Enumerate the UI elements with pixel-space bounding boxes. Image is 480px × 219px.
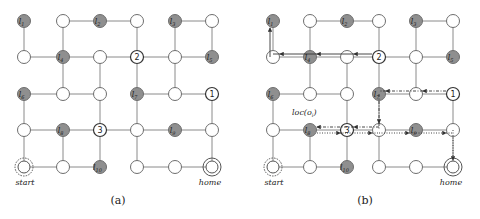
node-landmark-l1: l1 [18, 15, 31, 28]
svg-text:start: start [15, 178, 35, 187]
grid-map-figure: l1l2l3l42l5l6l71l83l9startl10home l1l2l3… [0, 0, 480, 219]
node-home-home: home [199, 158, 222, 187]
node-numbered-2: 2 [131, 51, 144, 64]
node-empty [169, 51, 182, 64]
node-empty [94, 51, 107, 64]
node-numbered-1: 1 [447, 88, 460, 101]
svg-text:3: 3 [97, 126, 102, 135]
loc-oi-annotation: loc(oi) [292, 108, 317, 118]
node-landmark-l5: l5 [206, 51, 219, 64]
node-empty [57, 88, 70, 101]
node-empty [304, 88, 317, 101]
node-empty [410, 161, 423, 174]
node-empty [169, 161, 182, 174]
node-empty [94, 88, 107, 101]
node-landmark-l8: l8 [57, 124, 70, 137]
node-landmark-l4: l4 [57, 51, 70, 64]
node-empty [57, 161, 70, 174]
svg-text:1: 1 [450, 90, 455, 99]
node-empty [18, 51, 31, 64]
node-empty [267, 124, 280, 137]
node-empty [131, 124, 144, 137]
node-empty [373, 161, 386, 174]
node-empty [18, 124, 31, 137]
node-landmark-l3: l3 [169, 15, 182, 28]
caption-b: (b) [357, 194, 373, 207]
node-landmark-l3: l3 [410, 15, 423, 28]
node-empty [169, 88, 182, 101]
node-landmark-l10: l10 [93, 161, 106, 174]
svg-text:2: 2 [376, 53, 381, 62]
node-landmark-l8: l8 [304, 124, 317, 137]
svg-text:start: start [264, 178, 284, 187]
node-empty [410, 51, 423, 64]
node-landmark-l9: l9 [410, 124, 423, 137]
svg-text:1: 1 [209, 90, 214, 99]
node-landmark-l5: l5 [447, 51, 460, 64]
node-empty [447, 15, 460, 28]
node-empty [57, 15, 70, 28]
node-landmark-l6: l6 [18, 88, 31, 101]
node-home-home: home [440, 158, 463, 187]
caption-a: (a) [110, 194, 125, 207]
node-landmark-l2: l2 [341, 15, 354, 28]
node-landmark-l10: l10 [340, 161, 353, 174]
svg-text:home: home [199, 178, 222, 187]
node-landmark-l9: l9 [169, 124, 182, 137]
node-empty [131, 161, 144, 174]
node-numbered-1: 1 [206, 88, 219, 101]
node-empty [341, 51, 354, 64]
svg-text:2: 2 [134, 53, 139, 62]
node-landmark-l1: l1 [267, 15, 280, 28]
node-landmark-l4: l4 [304, 51, 317, 64]
node-landmark-l7: l7 [131, 88, 144, 101]
node-numbered-2: 2 [373, 51, 386, 64]
node-empty [373, 15, 386, 28]
node-empty [304, 15, 317, 28]
svg-text:home: home [440, 178, 463, 187]
panel-a-grid: l1l2l3l42l5l6l71l83l9startl10home [15, 15, 221, 188]
node-landmark-l6: l6 [267, 88, 280, 101]
node-empty [304, 161, 317, 174]
node-landmark-l2: l2 [94, 15, 107, 28]
node-numbered-3: 3 [341, 124, 354, 137]
node-empty [341, 88, 354, 101]
node-empty [206, 15, 219, 28]
node-empty [410, 88, 423, 101]
node-empty [267, 51, 280, 64]
node-numbered-3: 3 [94, 124, 107, 137]
panel-b-grid: l1l2l3l42l5l6l71l83l9startl10home [264, 15, 462, 188]
node-empty [131, 15, 144, 28]
node-start-start: start [15, 158, 35, 187]
node-start-start: start [264, 158, 284, 187]
node-empty [206, 124, 219, 137]
